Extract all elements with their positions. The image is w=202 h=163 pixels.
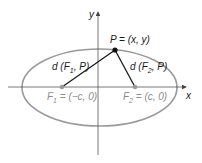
ellipse-diagram: y x P = (x, y) d (F1, P) d (F2, P) F1 = …: [0, 0, 202, 163]
distance-1-post: , P): [74, 61, 90, 72]
focus-2-rest: = (c, 0): [133, 91, 167, 102]
distance-2-label: d (F2, P): [130, 61, 167, 74]
distance-1-pre: d (F: [52, 61, 70, 72]
focus-1-dot: [60, 85, 65, 90]
distance-2-pre: d (F: [130, 61, 148, 72]
x-axis-label: x: [186, 90, 191, 101]
focus-1-label: F1 = (−c, 0): [47, 91, 97, 104]
diagram-canvas: [0, 0, 202, 163]
distance-1-label: d (F1, P): [52, 61, 89, 74]
point-p-dot: [112, 47, 117, 52]
focus-2-label: F2 = (c, 0): [123, 91, 167, 104]
point-p-label: P = (x, y): [110, 34, 150, 45]
y-axis-label: y: [89, 9, 94, 20]
focus-1-rest: = (−c, 0): [57, 91, 97, 102]
distance-2-post: , P): [152, 61, 168, 72]
focus-2-dot: [133, 85, 138, 90]
